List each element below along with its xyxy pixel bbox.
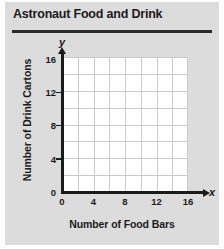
y-tick-mark xyxy=(56,125,61,127)
x-tick-label: 4 xyxy=(83,196,105,207)
x-tick-label: 8 xyxy=(114,196,136,207)
gridline-horizontal xyxy=(62,108,188,109)
gridline-horizontal xyxy=(62,57,188,58)
y-tick-label: 12 xyxy=(34,87,56,98)
y-axis-arrow-icon xyxy=(58,47,66,54)
graph-figure: Astronaut Food and Drink Number of Drink… xyxy=(0,0,224,249)
x-tick-labels: 0 4 8 12 16 xyxy=(0,196,224,210)
y-axis-label: Number of Drink Cartons xyxy=(21,45,33,195)
gridline-horizontal xyxy=(62,175,188,176)
gridline-horizontal xyxy=(62,158,188,159)
y-tick-mark xyxy=(56,158,61,160)
gridline-horizontal xyxy=(62,74,188,75)
x-tick-label: 16 xyxy=(177,196,199,207)
x-axis-label: Number of Food Bars xyxy=(52,218,192,230)
y-axis-line xyxy=(61,53,64,192)
y-axis-variable: y xyxy=(59,36,65,48)
y-tick-mark xyxy=(56,92,61,94)
x-tick-label: 12 xyxy=(146,196,168,207)
y-tick-labels: 16 12 8 4 0 xyxy=(34,0,56,249)
x-axis-line xyxy=(61,191,204,194)
gridline-horizontal xyxy=(62,141,188,142)
x-tick-label: 0 xyxy=(51,196,73,207)
y-tick-label: 4 xyxy=(34,154,56,165)
gridline-horizontal xyxy=(62,125,188,126)
y-tick-label: 16 xyxy=(34,54,56,65)
gridline-horizontal xyxy=(62,91,188,92)
plot-area xyxy=(62,57,188,192)
y-tick-label: 8 xyxy=(34,120,56,131)
